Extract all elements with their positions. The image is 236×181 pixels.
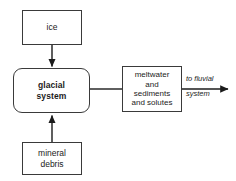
node-meltwater-label: meltwater and sediments and solutes bbox=[132, 70, 173, 108]
node-meltwater: meltwater and sediments and solutes bbox=[122, 66, 182, 112]
node-ice: ice bbox=[22, 10, 82, 45]
node-glacial-system-label: glacial system bbox=[37, 80, 67, 100]
node-glacial-system: glacial system bbox=[13, 68, 90, 113]
node-ice-label: ice bbox=[47, 22, 58, 32]
node-mineral-debris-label: mineral debris bbox=[38, 148, 66, 168]
node-mineral-debris: mineral debris bbox=[22, 142, 82, 175]
caption-to-fluvial-system: to fluvial system bbox=[186, 71, 234, 102]
glacial-system-diagram: ice glacial system meltwater and sedimen… bbox=[0, 0, 236, 181]
